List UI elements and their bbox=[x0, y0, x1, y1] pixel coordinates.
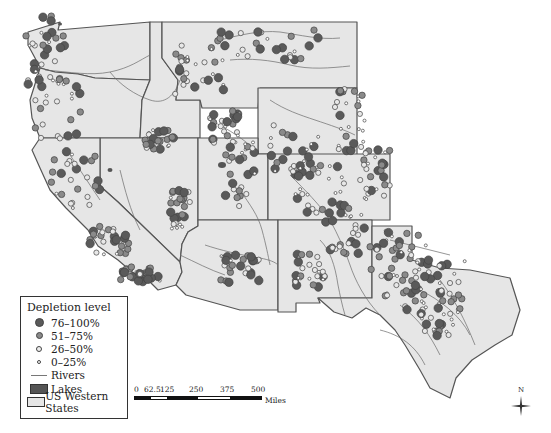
legend: Depletion level 76–100% 51–75% 26–50% 0–… bbox=[20, 296, 128, 419]
legend-item-0-25: 0–25% bbox=[27, 356, 121, 369]
scale-tick: 500 bbox=[251, 385, 265, 394]
scale-tick: 0 bbox=[134, 385, 139, 394]
tiny-white-circle-icon bbox=[37, 360, 41, 364]
state-swatch-icon bbox=[27, 397, 45, 407]
scale-bar: 0 62.5 125 250 375 500 Miles bbox=[134, 385, 294, 400]
river-line-icon bbox=[31, 375, 47, 376]
north-label: N bbox=[518, 386, 524, 394]
small-light-circle-icon bbox=[36, 346, 42, 352]
legend-item-26-50: 26–50% bbox=[27, 342, 121, 355]
legend-title: Depletion level bbox=[27, 301, 121, 314]
scale-unit: Miles bbox=[265, 396, 286, 405]
scale-tick: 375 bbox=[220, 385, 234, 394]
medium-gray-circle-icon bbox=[36, 332, 43, 339]
north-arrow-icon: N bbox=[506, 383, 536, 419]
legend-item-51-75: 51–75% bbox=[27, 329, 121, 342]
legend-item-states: US Western States bbox=[27, 395, 121, 408]
large-dark-circle-icon bbox=[35, 318, 44, 327]
scale-tick: 250 bbox=[189, 385, 203, 394]
scale-tick: 125 bbox=[160, 385, 174, 394]
scale-tick: 62.5 bbox=[144, 385, 161, 394]
legend-item-rivers: Rivers bbox=[27, 369, 121, 382]
scale-bar-graphic bbox=[134, 396, 262, 400]
legend-item-76-100: 76–100% bbox=[27, 316, 121, 329]
